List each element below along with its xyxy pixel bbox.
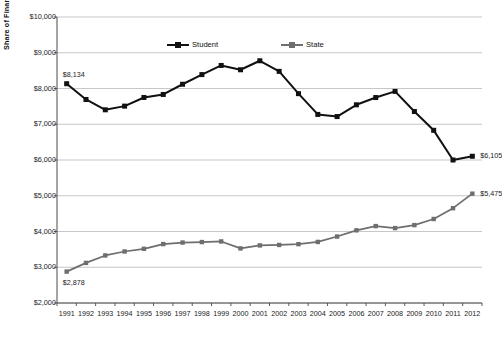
legend-label: Student <box>192 40 218 49</box>
x-axis-tick-label: 1994 <box>115 310 134 317</box>
x-axis-tick-label: 1996 <box>154 310 173 317</box>
data-point-marker <box>296 242 300 246</box>
x-axis-tick-label: 2002 <box>270 310 289 317</box>
data-point-marker <box>451 206 455 210</box>
data-point-marker <box>180 82 185 87</box>
data-point-marker <box>238 67 243 72</box>
legend-item-state[interactable]: State <box>281 40 324 49</box>
data-point-marker <box>161 92 166 97</box>
x-axis-tick-label: 1993 <box>96 310 115 317</box>
data-point-marker <box>219 63 224 68</box>
data-point-marker <box>393 226 397 230</box>
x-axis-tick-label: 2012 <box>463 310 482 317</box>
data-point-marker <box>64 269 68 273</box>
data-point-marker <box>103 107 108 112</box>
data-label: $8,134 <box>63 71 85 78</box>
x-axis-tick-label: 1992 <box>76 310 95 317</box>
data-point-marker <box>431 128 436 133</box>
data-point-marker <box>316 240 320 244</box>
x-axis-tick-label: 2004 <box>308 310 327 317</box>
data-point-marker <box>200 240 204 244</box>
legend-swatch-state <box>281 41 303 48</box>
data-point-marker <box>141 95 146 100</box>
data-point-marker <box>142 247 146 251</box>
x-axis-tick-label: 2001 <box>250 310 269 317</box>
x-axis-tick-label: 1991 <box>57 310 76 317</box>
data-point-marker <box>412 109 417 114</box>
x-axis-tick-label: 2009 <box>405 310 424 317</box>
data-point-marker <box>432 217 436 221</box>
data-label: $5,475 <box>480 190 502 197</box>
data-point-marker <box>180 240 184 244</box>
data-point-marker <box>103 253 107 257</box>
x-axis-tick-label: 2003 <box>289 310 308 317</box>
data-label: $2,878 <box>63 279 85 286</box>
data-label: $6,105 <box>480 152 502 159</box>
data-point-marker <box>470 154 475 159</box>
data-point-marker <box>199 72 204 77</box>
data-point-marker <box>257 58 262 63</box>
x-axis-tick-label: 1998 <box>192 310 211 317</box>
data-point-marker <box>84 261 88 265</box>
x-axis-tick-label: 2005 <box>327 310 346 317</box>
data-point-marker <box>238 246 242 250</box>
data-point-marker <box>470 191 474 195</box>
data-point-marker <box>122 249 126 253</box>
data-point-marker <box>258 243 262 247</box>
data-point-marker <box>412 223 416 227</box>
data-point-marker <box>315 112 320 117</box>
x-axis-tick-label: 1997 <box>173 310 192 317</box>
x-axis-tick-label: 1999 <box>212 310 231 317</box>
data-point-marker <box>277 69 282 74</box>
x-axis-tick-label: 1995 <box>134 310 153 317</box>
x-axis-tick-label: 2006 <box>347 310 366 317</box>
series-line-state <box>67 194 473 272</box>
x-axis-tick-label: 2007 <box>366 310 385 317</box>
data-point-marker <box>83 97 88 102</box>
data-point-marker <box>373 95 378 100</box>
data-point-marker <box>296 91 301 96</box>
legend-item-student[interactable]: Student <box>167 40 218 49</box>
series-line-student <box>67 61 473 160</box>
legend-label: State <box>306 40 324 49</box>
data-point-marker <box>335 234 339 238</box>
x-axis-tick-label: 2008 <box>385 310 404 317</box>
data-point-marker <box>354 228 358 232</box>
data-point-marker <box>161 242 165 246</box>
data-point-marker <box>374 224 378 228</box>
data-point-marker <box>122 104 127 109</box>
x-axis-tick-label: 2000 <box>231 310 250 317</box>
x-axis-tick-label: 2010 <box>424 310 443 317</box>
legend-swatch-student <box>167 41 189 48</box>
data-point-marker <box>335 114 340 119</box>
x-axis-tick-label: 2011 <box>443 310 462 317</box>
data-point-marker <box>219 239 223 243</box>
data-point-marker <box>64 81 69 86</box>
data-point-marker <box>393 89 398 94</box>
data-point-marker <box>354 102 359 107</box>
data-point-marker <box>451 158 456 163</box>
data-point-marker <box>277 243 281 247</box>
